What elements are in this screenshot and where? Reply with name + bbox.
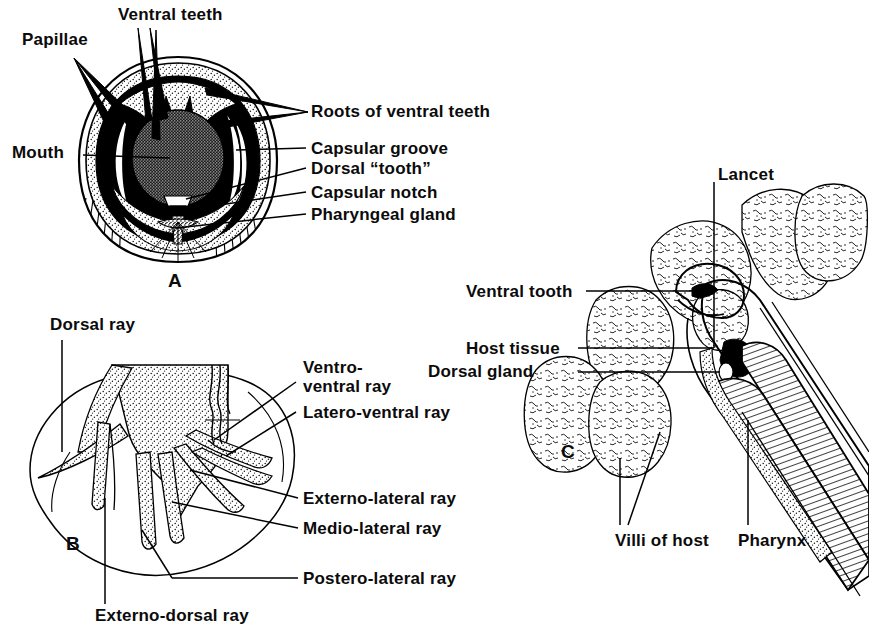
label-ventral-tooth: Ventral tooth — [466, 282, 573, 301]
label-postero-lateral-ray: Postero-lateral ray — [303, 569, 456, 588]
panel-letter-c: C — [561, 441, 575, 463]
label-villi-of-host: Villi of host — [615, 531, 709, 550]
label-latero-ventral-ray: Latero-ventral ray — [303, 403, 450, 422]
label-papillae: Papillae — [22, 30, 88, 49]
panel-b-drawing — [30, 340, 298, 604]
figure-plate: Papillae Ventral teeth Mouth Roots of ve… — [0, 0, 869, 636]
panel-letter-a: A — [168, 270, 182, 292]
label-ventral-teeth: Ventral teeth — [118, 5, 223, 24]
label-capsular-notch: Capsular notch — [311, 183, 438, 202]
label-roots-of-ventral-teeth: Roots of ventral teeth — [311, 102, 490, 121]
label-externo-lateral-ray: Externo-lateral ray — [303, 489, 456, 508]
label-dorsal-ray: Dorsal ray — [50, 315, 135, 334]
label-dorsal-gland: Dorsal gland — [428, 362, 533, 381]
panel-letter-b: B — [66, 533, 80, 555]
panel-a-drawing — [74, 28, 308, 268]
label-dorsal-tooth: Dorsal “tooth” — [311, 159, 431, 178]
label-host-tissue: Host tissue — [466, 339, 560, 358]
label-medio-lateral-ray: Medio-lateral ray — [303, 519, 442, 538]
label-mouth: Mouth — [12, 143, 64, 162]
label-pharyngeal-gland: Pharyngeal gland — [311, 205, 456, 224]
label-ventro-ventral-ray: Ventro- ventral ray — [303, 358, 391, 396]
label-pharynx: Pharynx — [738, 531, 807, 550]
label-lancet: Lancet — [718, 165, 774, 184]
label-capsular-groove: Capsular groove — [311, 139, 448, 158]
label-externo-dorsal-ray: Externo-dorsal ray — [95, 606, 249, 625]
